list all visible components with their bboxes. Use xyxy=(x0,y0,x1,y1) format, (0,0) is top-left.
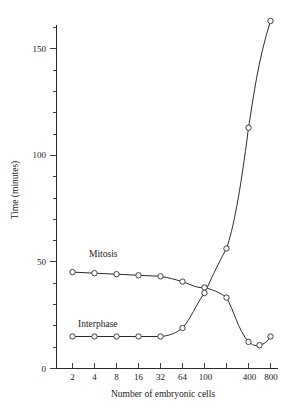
x-tick-label-4: 4 xyxy=(92,372,97,382)
series-label-interphase: Interphase xyxy=(78,319,118,329)
x-tick-label-2: 2 xyxy=(70,372,75,382)
x-axis-ticks xyxy=(73,363,271,369)
x-tick-label-800: 800 xyxy=(264,372,278,382)
y-tick-label-50: 50 xyxy=(37,257,47,267)
x-tick-label-32: 32 xyxy=(156,372,165,382)
x-axis-title: Number of embryonic cells xyxy=(111,389,216,399)
interphase-markers xyxy=(70,18,273,339)
y-tick-label-0: 0 xyxy=(42,364,47,374)
x-tick-label-64: 64 xyxy=(178,372,188,382)
x-tick-label-400: 400 xyxy=(243,372,257,382)
interphase-curve xyxy=(73,21,271,337)
chart-figure: 0 50 100 150 2 4 8 16 32 64 100 400 800 … xyxy=(0,0,283,412)
x-tick-label-16: 16 xyxy=(134,372,144,382)
y-tick-label-150: 150 xyxy=(33,44,47,54)
line-chart-plot: 0 50 100 150 2 4 8 16 32 64 100 400 800 … xyxy=(0,0,283,412)
y-axis-major-ticks xyxy=(50,49,57,369)
series-label-mitosis: Mitosis xyxy=(89,249,118,259)
x-tick-label-100: 100 xyxy=(199,372,213,382)
y-tick-label-100: 100 xyxy=(33,150,47,160)
y-axis-minor-ticks xyxy=(53,27,57,347)
y-axis-title: Time (minutes) xyxy=(10,161,21,220)
x-tick-label-8: 8 xyxy=(114,372,119,382)
